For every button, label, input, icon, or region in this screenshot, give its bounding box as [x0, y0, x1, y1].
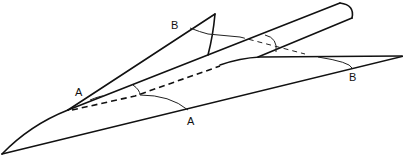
body-rounded-end — [340, 3, 353, 18]
label-b-upper: B — [171, 19, 178, 31]
section-b-lower-arc — [318, 57, 352, 68]
label-a-upper: A — [75, 86, 83, 98]
label-b-lower: B — [349, 71, 356, 83]
body-lower-line — [258, 18, 352, 57]
lower-wing-leading-edge — [2, 56, 403, 154]
apex-curved-edge — [2, 110, 68, 154]
label-a-lower: A — [187, 115, 195, 127]
section-a-arc — [133, 85, 188, 110]
wing-diagram: A A B B — [0, 0, 403, 157]
hidden-root-line — [72, 66, 220, 110]
upper-wing-leading-edge — [68, 14, 215, 110]
section-b-upper — [190, 28, 240, 37]
